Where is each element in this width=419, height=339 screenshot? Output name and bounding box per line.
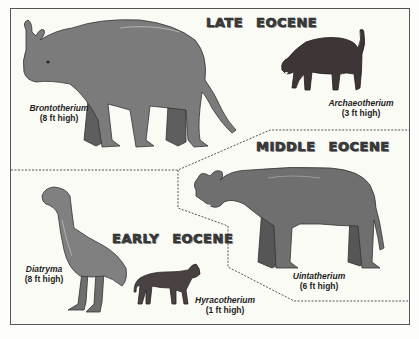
animal-height: (3 ft high) — [326, 108, 396, 118]
animal-name: Hyracotherium — [190, 295, 260, 305]
heading-late-eocene: LATE EOCENE — [206, 15, 317, 30]
heading-middle-eocene: MIDDLE EOCENE — [256, 139, 390, 154]
animal-height: (6 ft high) — [286, 281, 352, 291]
archaeotherium-illustration — [282, 30, 365, 91]
animal-height: (8 ft high) — [24, 113, 94, 123]
label-diatryma: Diatryma (8 ft high) — [18, 264, 70, 284]
diatryma-illustration — [42, 187, 127, 312]
animal-name: Diatryma — [18, 264, 70, 274]
label-archaeotherium: Archaeotherium (3 ft high) — [326, 98, 396, 118]
canvas: LATE EOCENE MIDDLE EOCENE EARLY EOCENE B… — [0, 0, 419, 339]
animal-name: Brontotherium — [24, 103, 94, 113]
label-brontotherium: Brontotherium (8 ft high) — [24, 103, 94, 123]
heading-early-eocene: EARLY EOCENE — [112, 231, 233, 246]
animal-height: (8 ft high) — [18, 274, 70, 284]
animal-height: (1 ft high) — [190, 305, 260, 315]
animal-name: Archaeotherium — [326, 98, 396, 108]
label-hyracotherium: Hyracotherium (1 ft high) — [190, 295, 260, 315]
animal-name: Uintatherium — [286, 271, 352, 281]
diagram-art — [0, 0, 419, 339]
brontotherium-illustration — [23, 20, 236, 147]
uintatherium-illustration — [194, 167, 384, 268]
label-uintatherium: Uintatherium (6 ft high) — [286, 271, 352, 291]
